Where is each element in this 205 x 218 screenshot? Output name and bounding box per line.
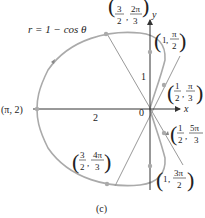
svg-text:): ): [142, 0, 149, 18]
svg-text:,: ,: [87, 158, 89, 168]
svg-text:3: 3: [188, 93, 193, 103]
figure-caption: (c): [96, 203, 107, 215]
svg-text:,: ,: [166, 35, 168, 45]
svg-text:3: 3: [95, 162, 100, 172]
svg-text:2: 2: [172, 41, 177, 51]
svg-text:2: 2: [178, 135, 183, 145]
equation-label: r = 1 − cos θ: [28, 23, 87, 35]
point-label-1-pi2: ( 1 , π 2 ): [154, 28, 186, 53]
svg-text:1: 1: [163, 174, 168, 184]
svg-text:(: (: [108, 0, 115, 18]
svg-text:2: 2: [175, 93, 180, 103]
svg-text:3: 3: [133, 16, 138, 26]
svg-text:,: ,: [126, 12, 128, 22]
svg-text:3π: 3π: [174, 168, 184, 178]
svg-text:(: (: [154, 28, 161, 53]
svg-text:3: 3: [117, 4, 122, 14]
svg-text:2: 2: [117, 16, 122, 26]
svg-text:3: 3: [80, 150, 85, 160]
svg-text:,: ,: [182, 89, 184, 99]
svg-text:2: 2: [177, 180, 182, 190]
cardioid-diagram: r = 1 − cos θ y x 0 2 1 (π, 2) ( 3 2 , 2…: [0, 0, 205, 218]
svg-text:): ): [104, 149, 111, 174]
point-label-1-2-5pi3: ( 1 2 , 5π 3: [170, 121, 203, 146]
two-label: 2: [93, 112, 98, 123]
svg-text:): ): [187, 167, 194, 192]
svg-text:5π: 5π: [190, 123, 200, 133]
svg-text:4π: 4π: [93, 150, 103, 160]
svg-text:,: ,: [185, 131, 187, 141]
one-label: 1: [141, 71, 146, 82]
point-label-3-2-4pi3: ( 3 2 , 4π 3 ): [72, 149, 111, 174]
direction-arrow-icon: [51, 59, 55, 64]
origin-label: 0: [139, 107, 144, 118]
svg-text:(: (: [72, 149, 79, 174]
svg-text:3: 3: [194, 135, 199, 145]
point-label-1-2-pi3: ( 1 2 , π 3 ): [167, 80, 203, 105]
point-label-1-3pi2: ( 1 , 3π 2 ): [156, 167, 194, 192]
point-pi-2: (π, 2): [1, 104, 23, 116]
svg-text:π: π: [188, 81, 193, 91]
point-label-3-2-2pi3: ( 3 2 , 2π 3 ): [108, 0, 149, 26]
svg-text:(: (: [170, 121, 177, 146]
svg-text:1: 1: [175, 81, 180, 91]
svg-text:): ): [196, 80, 203, 105]
svg-text:(: (: [167, 80, 174, 105]
svg-text:,: ,: [168, 174, 170, 184]
y-axis-label: y: [151, 9, 157, 20]
svg-text:1: 1: [178, 123, 183, 133]
svg-text:): ): [179, 28, 186, 53]
svg-text:π: π: [172, 29, 177, 39]
svg-text:2π: 2π: [131, 4, 141, 14]
svg-text:2: 2: [80, 162, 85, 172]
x-axis-label: x: [183, 103, 189, 114]
